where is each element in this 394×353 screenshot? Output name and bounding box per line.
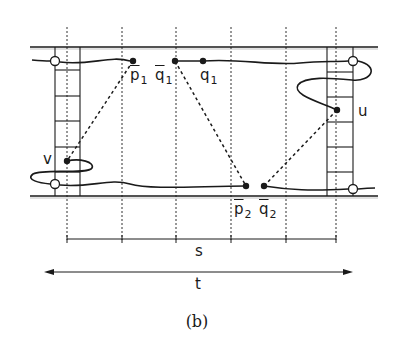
right-bottom-port	[349, 185, 358, 194]
point-p1-bar	[130, 58, 136, 64]
point-q1	[200, 58, 206, 64]
label-u: u	[358, 104, 368, 119]
point-q2-bar	[261, 183, 267, 189]
left-ladder	[55, 47, 80, 196]
label-q1-bar: q1	[155, 68, 173, 83]
t-arrow-left-head	[44, 269, 54, 275]
label-p1-bar: p1	[130, 68, 148, 83]
label-s: s	[195, 244, 203, 259]
figure-caption: (b)	[0, 312, 394, 331]
left-bottom-port	[51, 180, 60, 189]
diagram-figure: p1 q1 q1 p2 q2 u v s t (b)	[0, 0, 394, 353]
left-top-port	[51, 57, 60, 66]
label-v: v	[43, 152, 52, 167]
point-v	[64, 158, 70, 164]
label-q1: q1	[200, 68, 218, 83]
right-ladder	[327, 47, 353, 196]
point-u	[334, 107, 340, 113]
right-top-port	[349, 57, 358, 66]
point-q1-bar	[172, 58, 178, 64]
t-arrow-right-head	[343, 269, 353, 275]
label-t: t	[195, 277, 201, 292]
point-p2-bar	[243, 183, 249, 189]
label-q2-bar: q2	[259, 202, 277, 217]
diagram-canvas	[0, 0, 394, 353]
label-p2-bar: p2	[234, 202, 252, 217]
